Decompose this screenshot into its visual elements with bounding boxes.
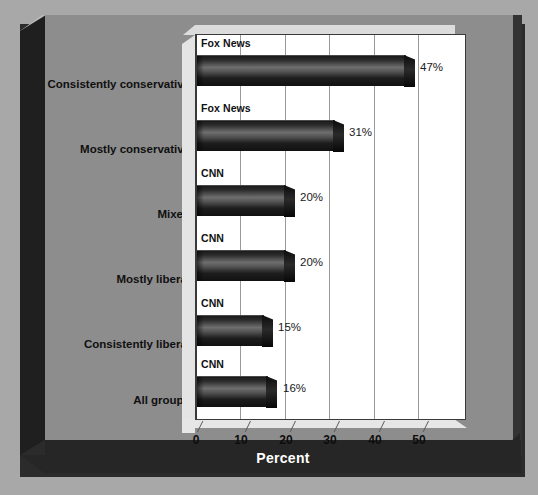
- bar-left-shading: [197, 186, 204, 216]
- value-label-20: 20%: [300, 191, 323, 203]
- series-label-fox-news: Fox News: [201, 37, 251, 49]
- bar-row: Fox News 47%: [196, 35, 465, 100]
- poster-background: Consistently conservative Mostly conserv…: [0, 0, 538, 495]
- bar-left-shading: [197, 121, 204, 151]
- bar-end-cap: [284, 250, 295, 282]
- series-label-cnn: CNN: [201, 232, 224, 244]
- plot-area-wrapper: Fox News 47% Fox News 31%: [195, 34, 467, 428]
- value-label-47: 47%: [420, 61, 443, 73]
- clipped-title-remnant: [0, 0, 538, 2]
- plot-floor-left-lip: [182, 25, 196, 419]
- x-tick-50: 50: [412, 433, 425, 447]
- bar-consistently-liberal[interactable]: [197, 315, 264, 346]
- bar-left-shading: [197, 316, 204, 346]
- bar-row: Fox News 31%: [196, 100, 465, 165]
- value-label-16: 16%: [283, 382, 306, 394]
- x-tick-10: 10: [234, 433, 247, 447]
- bar-row: CNN 20%: [196, 165, 465, 230]
- value-label-20: 20%: [300, 256, 323, 268]
- x-tick-0: 0: [193, 433, 200, 447]
- category-label-consistently-conservative: Consistently conservative: [47, 78, 190, 90]
- value-label-15: 15%: [278, 321, 301, 333]
- bar-row: CNN 20%: [196, 230, 465, 295]
- bar-end-cap: [404, 55, 415, 87]
- bar-consistently-conservative[interactable]: [197, 55, 406, 86]
- value-label-31: 31%: [349, 126, 372, 138]
- bar-end-cap: [284, 185, 295, 217]
- bar-mixed[interactable]: [197, 185, 286, 216]
- bar-mostly-conservative[interactable]: [197, 120, 335, 151]
- bar-end-cap: [333, 120, 344, 152]
- x-axis-title: Percent: [45, 450, 521, 466]
- x-tick-20: 20: [279, 433, 292, 447]
- bar-row: CNN 15%: [196, 295, 465, 360]
- plot-area: Fox News 47% Fox News 31%: [195, 34, 466, 420]
- chart-right-edge: [513, 15, 522, 456]
- series-label-cnn: CNN: [201, 358, 224, 370]
- bar-mostly-liberal[interactable]: [197, 250, 286, 281]
- bar-all-groups[interactable]: [197, 376, 268, 407]
- series-label-fox-news: Fox News: [201, 102, 251, 114]
- series-label-cnn: CNN: [201, 167, 224, 179]
- bar-left-shading: [197, 251, 204, 281]
- series-label-cnn: CNN: [201, 297, 224, 309]
- category-axis-labels: Consistently conservative Mostly conserv…: [38, 34, 190, 428]
- bar-left-shading: [197, 56, 204, 86]
- bar-end-cap: [266, 376, 277, 408]
- bar-row: CNN 16%: [196, 356, 465, 421]
- category-label-consistently-liberal: Consistently liberal: [84, 338, 190, 350]
- category-label-all-groups: All groups: [133, 394, 190, 406]
- x-tick-30: 30: [323, 433, 336, 447]
- category-label-mostly-liberal: Mostly liberal: [117, 273, 191, 285]
- chart-3d-container: Consistently conservative Mostly conserv…: [8, 9, 527, 479]
- bar-left-shading: [197, 377, 204, 407]
- bar-end-cap: [262, 315, 273, 347]
- x-tick-40: 40: [368, 433, 381, 447]
- category-label-mostly-conservative: Mostly conservative: [80, 143, 190, 155]
